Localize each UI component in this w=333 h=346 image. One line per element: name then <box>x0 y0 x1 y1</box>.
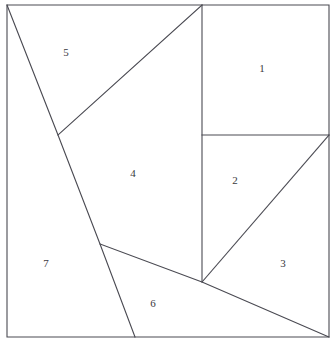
region-label-4: 4 <box>130 168 136 179</box>
region-label-6: 6 <box>150 298 156 309</box>
region-label-7: 7 <box>43 258 49 269</box>
region-label-1: 1 <box>259 63 265 74</box>
outer-square <box>7 5 329 337</box>
region-label-3: 3 <box>280 258 286 269</box>
region-label-2: 2 <box>232 175 238 186</box>
region-label-5: 5 <box>63 47 69 58</box>
dissected-square-diagram <box>0 0 333 346</box>
figure-container: 1 2 3 4 5 6 7 <box>0 0 333 346</box>
